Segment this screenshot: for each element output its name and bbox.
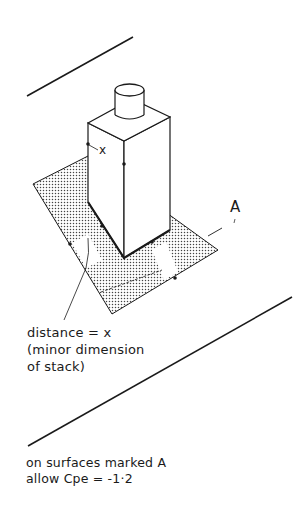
x-marker-label: x — [99, 143, 106, 158]
caption-line2: allow Cpe = -1·2 — [26, 471, 133, 486]
diagram-canvas — [0, 0, 308, 514]
flue-cylinder — [115, 84, 144, 119]
distance-note-line2: (minor dimension — [27, 342, 145, 357]
a-tick — [234, 219, 235, 223]
distance-note-line3: of stack) — [27, 359, 85, 374]
caption-line1: on surfaces marked A — [26, 455, 166, 470]
a-leader-line — [208, 228, 222, 236]
surface-a-label: A — [230, 200, 240, 215]
distance-note-line1: distance = x — [27, 325, 111, 340]
